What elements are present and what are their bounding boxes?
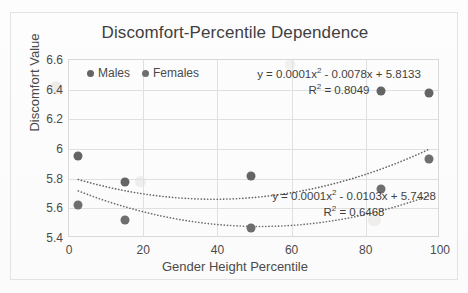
- chart-container: Discomfort-Percentile Dependence Discomf…: [10, 12, 458, 280]
- plot-area: 5.45.65.866.26.46.6 020406080100 Males F…: [68, 59, 439, 237]
- x-axis-tick-label: 0: [66, 243, 73, 257]
- y-axis-tick-label: 6.2: [46, 112, 63, 126]
- y-axis-tick-label: 6.4: [46, 83, 63, 97]
- males-trendline-annotation: y = 0.0001x2 - 0.0078x + 5.8133 R2 = 0.8…: [239, 66, 439, 99]
- y-axis-tick-label: 6: [56, 142, 63, 156]
- y-axis-tick-label: 5.6: [46, 201, 63, 215]
- data-point-females: [424, 155, 433, 164]
- x-axis-tick-label: 80: [359, 243, 372, 257]
- data-point-females: [74, 201, 83, 210]
- y-axis-title: Discomfort Value: [27, 8, 42, 158]
- data-point-males: [246, 171, 255, 180]
- x-axis-title: Gender Height Percentile: [11, 259, 459, 274]
- females-equation: y = 0.0001x2 - 0.0103x + 5.7428: [249, 188, 459, 204]
- legend-label-males: Males: [98, 66, 130, 80]
- legend-item-females[interactable]: Females: [142, 66, 199, 80]
- data-point-females: [120, 216, 129, 225]
- males-r2: R2 = 0.8049: [239, 82, 439, 98]
- legend-item-males[interactable]: Males: [87, 66, 130, 80]
- legend-label-females: Females: [153, 66, 199, 80]
- y-axis-tick-label: 6.6: [46, 53, 63, 67]
- x-axis-tick-label: 100: [430, 243, 450, 257]
- y-axis-tick-label: 5.4: [46, 231, 63, 245]
- males-equation: y = 0.0001x2 - 0.0078x + 5.8133: [239, 66, 439, 82]
- y-axis-tick-label: 5.8: [46, 172, 63, 186]
- chart-title: Discomfort-Percentile Dependence: [11, 23, 459, 43]
- data-point-males: [120, 177, 129, 186]
- chart-legend: Males Females: [87, 66, 199, 80]
- females-r2: R2 = 0.6468: [249, 204, 459, 220]
- data-point-males: [74, 152, 83, 161]
- x-axis-tick-label: 20: [137, 243, 150, 257]
- females-trendline-annotation: y = 0.0001x2 - 0.0103x + 5.7428 R2 = 0.6…: [249, 188, 459, 221]
- legend-marker-females-icon: [142, 70, 149, 77]
- data-point-females: [246, 223, 255, 232]
- x-axis-tick-label: 60: [285, 243, 298, 257]
- legend-marker-males-icon: [87, 70, 94, 77]
- x-axis-tick-label: 40: [211, 243, 224, 257]
